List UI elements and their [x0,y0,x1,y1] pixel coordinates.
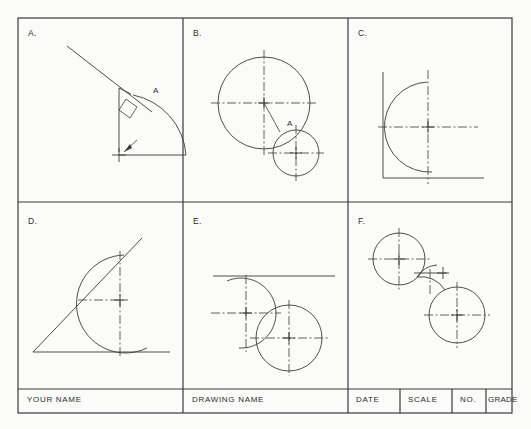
panel-label-e: E. [193,216,202,226]
panel-e-drawing [211,275,335,376]
panel-label-d: D. [28,216,37,226]
title-block-drawing-name[interactable]: DRAWING NAME [192,395,264,404]
panel-b-drawing [211,50,324,181]
panel-label-b: B. [193,28,202,38]
drawing-sheet: .solid { fill: none; stroke: #3a3a3a; st… [0,0,531,429]
title-block-grade[interactable]: GRADE [488,395,517,404]
title-block-number[interactable]: NO. [460,395,476,404]
panel-label-c: C. [358,28,367,38]
title-block-scale[interactable]: SCALE [408,395,438,404]
panel-a-drawing [67,46,186,162]
panel-f-drawing [368,228,490,348]
panel-label-f: F. [358,216,365,226]
panel-label-a: A. [28,28,37,38]
tangent-point-label-a: A [153,86,158,95]
sheet-frame [18,18,512,413]
panel-c-drawing [378,70,484,184]
tangent-point-label-b: A [287,119,292,128]
panel-d-drawing [33,238,170,356]
title-block-your-name[interactable]: YOUR NAME [27,395,82,404]
drawing-canvas: .solid { fill: none; stroke: #3a3a3a; st… [0,0,531,429]
title-block-date[interactable]: DATE [356,395,380,404]
